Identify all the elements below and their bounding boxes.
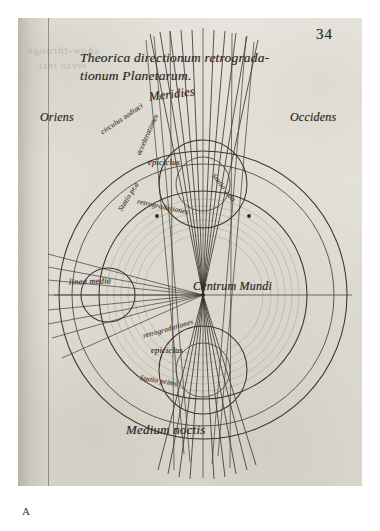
- label-centrum-mundi: Centrum Mundi: [193, 279, 272, 294]
- station-point-second: [247, 214, 251, 218]
- label-oriens: Oriens: [40, 110, 74, 125]
- label-linea-media: linea media: [69, 275, 111, 286]
- label-medium-noctis: Medium noctis: [126, 422, 206, 438]
- label-occidens: Occidens: [290, 110, 336, 125]
- figure-caption-letter: A: [22, 505, 30, 517]
- label-epicycle-lower: epiciclus: [151, 345, 183, 355]
- manuscript-page: show-through verso text 34 Theorica dire…: [18, 18, 362, 486]
- label-epicycle-upper: epiciclus: [148, 157, 180, 167]
- station-point-first: [155, 214, 159, 218]
